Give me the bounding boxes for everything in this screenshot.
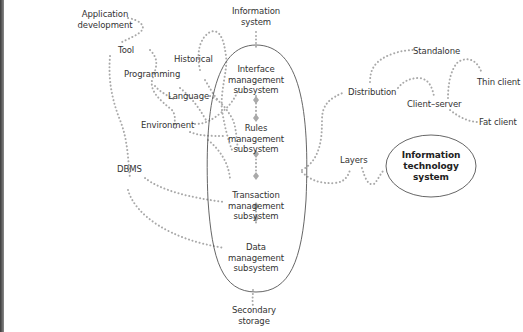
connector-ellipse-distribution	[302, 92, 345, 170]
node-application-development: Application development	[72, 9, 138, 30]
connector-clientserver-fat	[450, 110, 478, 122]
node-distribution: Distribution	[348, 87, 396, 98]
interface-management-subsystem: Interface management subsystem	[222, 64, 290, 96]
connector-environment-rules	[190, 132, 225, 136]
connector-ellipse-layers	[302, 170, 350, 183]
node-secondary-storage: Secondary storage	[222, 305, 286, 326]
connector-distribution-clientserver	[398, 78, 434, 96]
data-management-subsystem: Data management subsystem	[222, 242, 290, 274]
node-information-system: Information system	[226, 6, 286, 27]
node-thin-client: Thin client	[477, 77, 520, 88]
node-programming: Programming	[124, 69, 180, 80]
information-technology-system: Information technology system	[396, 150, 466, 183]
node-layers: Layers	[340, 155, 368, 166]
node-tool: Tool	[118, 45, 134, 56]
connector-tool-environment	[150, 50, 176, 130]
connector-dbms-data	[128, 190, 225, 248]
connector-distribution-standalone	[370, 50, 414, 82]
node-fat-client: Fat client	[479, 117, 517, 128]
arrow-diamond-2	[253, 114, 259, 122]
connector-layers-it	[362, 168, 384, 184]
node-client-server: Client–server	[407, 99, 461, 110]
connector-dbms-transaction	[145, 178, 225, 202]
arrow-diamond-1	[253, 96, 259, 104]
node-language: Language	[168, 91, 209, 102]
node-environment: Environment	[141, 120, 194, 131]
node-standalone: Standalone	[413, 46, 460, 57]
arrow-diamond-4	[253, 172, 259, 180]
node-dbms: DBMS	[117, 164, 142, 175]
transaction-management-subsystem: Transaction management subsystem	[222, 190, 290, 222]
node-historical: Historical	[174, 54, 213, 65]
rules-management-subsystem: Rules management subsystem	[222, 123, 290, 155]
